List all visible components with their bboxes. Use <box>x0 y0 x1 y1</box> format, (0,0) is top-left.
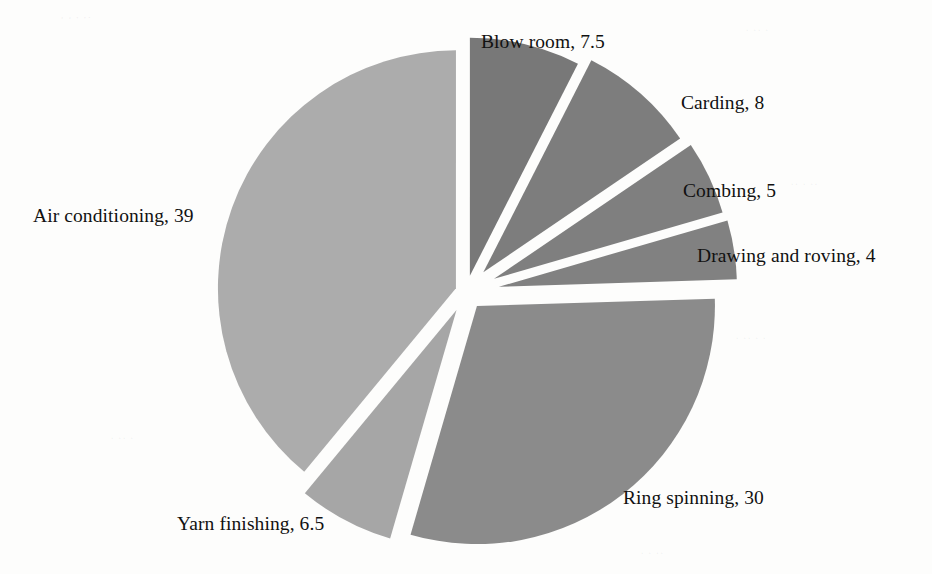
pie-label-yarn-finishing: Yarn finishing, 6.5 <box>177 513 324 534</box>
pie-label-combing: Combing, 5 <box>683 180 776 201</box>
pie-label-carding: Carding, 8 <box>681 92 764 113</box>
pie-chart-figure: Blow room, 7.5Carding, 8Combing, 5Drawin… <box>0 0 932 574</box>
pie-label-ring-spinning: Ring spinning, 30 <box>623 487 764 508</box>
pie-label-drawing-and-roving: Drawing and roving, 4 <box>697 245 876 266</box>
pie-slices-group <box>218 38 737 544</box>
pie-label-air-conditioning: Air conditioning, 39 <box>33 205 194 226</box>
pie-label-blow-room: Blow room, 7.5 <box>481 31 605 52</box>
pie-chart-svg <box>0 0 932 574</box>
